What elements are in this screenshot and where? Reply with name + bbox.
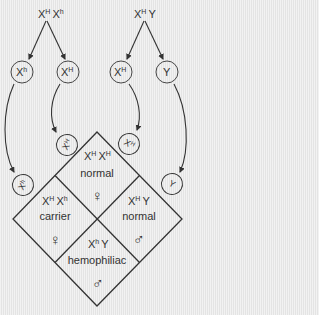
svg-text:XH: XH: [61, 66, 73, 78]
cell-right-genotype: XHY: [128, 195, 150, 207]
cell-left-genotype: XHXh: [42, 195, 68, 207]
arrow-gamete-father-2-to-right: [174, 84, 186, 172]
cell-right-status: normal: [122, 210, 156, 222]
gamete-circle-mother-1: Xh: [11, 61, 33, 83]
svg-text:Y: Y: [163, 66, 171, 78]
cell-top-genotype: XHXH: [84, 150, 111, 162]
arrow-father-to-gamete-1: [127, 21, 144, 59]
tilted-gamete-mother-1: Xh: [9, 171, 38, 200]
arrow-mother-to-gamete-1: [29, 21, 46, 59]
female-symbol-icon: ♀: [91, 187, 102, 204]
arrow-mother-to-gamete-2: [47, 21, 65, 59]
cell-top: XHXH normal ♀: [80, 150, 114, 204]
arrow-gamete-mother-2-to-top-left: [51, 84, 60, 132]
father-genotype-label: XHY: [134, 8, 156, 20]
male-symbol-icon: ♂: [92, 275, 104, 292]
cell-right: XHY normal ♂: [122, 195, 156, 248]
tilted-gamete-mother-2: XH: [53, 131, 82, 160]
gamete-arrows: [5, 84, 186, 172]
svg-text:XH: XH: [114, 66, 126, 78]
svg-text:Xh: Xh: [16, 179, 29, 192]
svg-text:Xh: Xh: [16, 66, 27, 78]
male-symbol-icon: ♂: [133, 231, 145, 248]
svg-text:XH: XH: [60, 138, 74, 152]
cell-bottom-genotype: XhY: [88, 238, 109, 250]
svg-text:XH: XH: [122, 137, 136, 151]
arrow-father-to-gamete-2: [145, 21, 163, 59]
cell-left-status: carrier: [39, 210, 71, 222]
cell-bottom-status: hemophiliac: [68, 254, 127, 266]
tilted-gamete-father-2: Y: [158, 170, 187, 199]
gamete-circle-mother-2: XH: [57, 61, 79, 83]
mother-genotype-label: XHXh: [38, 8, 64, 20]
parent-arrows: [29, 21, 163, 59]
svg-text:Y: Y: [167, 178, 177, 190]
cell-left: XHXh carrier ♀: [39, 195, 71, 248]
gamete-circle-father-2: Y: [156, 61, 178, 83]
cell-top-status: normal: [80, 167, 114, 179]
gamete-circle-father-1: XH: [110, 61, 132, 83]
female-symbol-icon: ♀: [49, 231, 60, 248]
arrow-gamete-mother-1-to-left: [5, 84, 14, 172]
punnett-square-diagram: XHXh XHY Xh XH XH Y XH XH Xh: [0, 0, 192, 315]
arrow-gamete-father-1-to-top-right: [129, 84, 139, 130]
